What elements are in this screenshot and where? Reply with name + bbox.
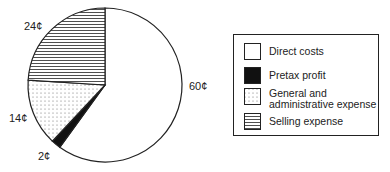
label-pretax-profit: 2¢	[38, 150, 50, 162]
legend-item-direct-costs: Direct costs	[244, 43, 324, 60]
legend-item-selling-expense: Selling expense	[244, 113, 343, 130]
label-selling-expense: 24¢	[24, 20, 42, 32]
white-swatch-icon	[244, 43, 261, 60]
label-direct-costs: 60¢	[189, 80, 207, 92]
striped-swatch-icon	[244, 113, 261, 130]
black-swatch-icon	[244, 67, 261, 84]
label-ga-expense: 14¢	[9, 112, 27, 124]
legend-item-ga-expense: General and administrative expense	[244, 88, 376, 110]
legend-item-pretax-profit: Pretax profit	[244, 67, 326, 84]
legend: Direct costs Pretax profit General and a…	[233, 34, 379, 136]
dotted-swatch-icon	[244, 88, 261, 105]
